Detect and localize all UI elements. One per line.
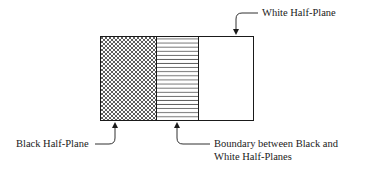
boundary-label-line1: Boundary between Black and — [214, 138, 338, 150]
black-half-plane-label: Black Half-Plane — [16, 138, 89, 150]
boundary-label-line2: White Half-Planes — [214, 151, 292, 163]
boundary-region — [156, 36, 198, 121]
black-label-leader — [95, 126, 115, 144]
white-half-plane-region — [198, 36, 254, 121]
white-half-plane-label: White Half-Plane — [262, 7, 336, 19]
black-half-plane-region — [100, 36, 156, 121]
boundary-arrow-icon — [174, 122, 180, 128]
boundary-label-leader — [177, 126, 210, 144]
white-arrow-icon — [233, 29, 239, 35]
black-arrow-icon — [112, 122, 118, 128]
white-label-leader — [236, 13, 258, 32]
